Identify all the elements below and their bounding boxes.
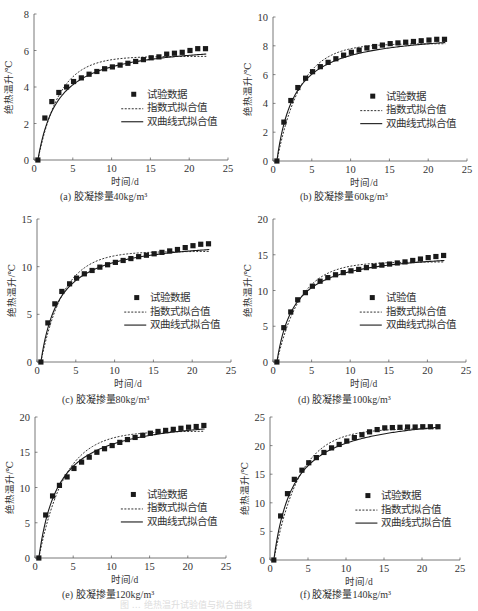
- x-tick-label: 20: [184, 163, 195, 174]
- x-tick-label: 5: [71, 561, 76, 572]
- chart-b: 05101520250246810时间/d绝热温升/℃试验数据指数式拟合值双曲线…: [242, 12, 472, 188]
- y-tick-label: 10: [255, 498, 266, 509]
- legend: 试验数据指数式拟合值双曲线式拟合值: [355, 489, 452, 528]
- y-tick-label: 4: [263, 98, 269, 109]
- y-tick-label: 8: [263, 41, 268, 52]
- legend-label: 双曲线式拟合值: [147, 515, 218, 527]
- x-tick-label: 0: [31, 163, 36, 174]
- legend: 试验数据指数式拟合值双曲线式拟合值: [121, 488, 218, 527]
- data-point-marker: [171, 427, 176, 432]
- data-point-marker: [203, 46, 208, 51]
- y-tick-label: 0: [27, 357, 32, 368]
- chart-d: 051015202505101520时间/d绝热温升/℃试验值指数式拟合值双曲线…: [242, 214, 471, 389]
- y-axis-label: 绝热温升/℃: [242, 264, 253, 318]
- data-point-marker: [441, 253, 446, 258]
- x-tick-label: 15: [144, 561, 155, 572]
- legend-marker-icon: [370, 94, 375, 99]
- x-tick-label: 20: [423, 164, 434, 175]
- x-tick-label: 25: [221, 561, 232, 572]
- x-tick-label: 20: [183, 561, 194, 572]
- subtitle-c: (c) 胶凝掺量80kg/m³: [62, 391, 149, 406]
- legend: 试验数据指数式拟合值双曲线式拟合值: [121, 88, 218, 127]
- x-axis-label: 时间/d: [111, 176, 139, 187]
- x-tick-label: 15: [384, 365, 395, 376]
- legend-label: 双曲线式拟合值: [381, 516, 452, 528]
- y-tick-label: 0: [24, 155, 29, 166]
- legend: 试验数据指数式拟合值双曲线式拟合值: [124, 291, 221, 330]
- x-axis-label: 时间/d: [350, 177, 378, 188]
- x-axis-label: 时间/d: [350, 378, 378, 389]
- legend-marker-icon: [134, 295, 139, 300]
- legend-marker-icon: [370, 295, 375, 300]
- x-tick-label: 0: [270, 164, 275, 175]
- x-tick-label: 5: [309, 365, 314, 376]
- data-point-marker: [372, 264, 377, 269]
- x-tick-label: 25: [455, 563, 466, 574]
- x-tick-label: 20: [187, 365, 198, 376]
- data-point-marker: [194, 424, 199, 429]
- x-tick-label: 25: [461, 365, 472, 376]
- y-tick-label: 0: [25, 553, 30, 564]
- data-point-marker: [178, 426, 183, 431]
- subtitle-f: (f) 胶凝掺量140kg/m³: [300, 586, 391, 601]
- y-tick-label: 4: [24, 82, 30, 93]
- y-tick-label: 0: [260, 555, 265, 566]
- data-point-marker: [419, 38, 424, 43]
- data-point-marker: [164, 52, 169, 57]
- x-tick-label: 10: [341, 563, 352, 574]
- legend-label: 指数式拟合值: [147, 101, 208, 113]
- legend-label: 双曲线式拟合值: [386, 117, 457, 129]
- data-point-marker: [49, 99, 54, 104]
- y-tick-label: 6: [263, 70, 268, 81]
- y-axis-label: 绝热温升/℃: [242, 62, 253, 116]
- data-point-marker: [388, 41, 393, 46]
- data-point-marker: [357, 48, 362, 53]
- x-tick-label: 5: [305, 563, 310, 574]
- legend: 试验数据指数式拟合值双曲线式拟合值: [360, 90, 457, 129]
- y-axis-label: 绝热温升/℃: [239, 462, 250, 516]
- y-axis-label: 绝热温升/℃: [6, 264, 17, 318]
- legend-label: 试验数据: [147, 488, 188, 500]
- y-tick-label: 15: [20, 447, 31, 458]
- legend-label: 双曲线式拟合值: [386, 318, 457, 330]
- legend-label: 试验数据: [381, 489, 422, 501]
- legend-label: 双曲线式拟合值: [147, 115, 218, 127]
- y-tick-label: 10: [22, 262, 33, 273]
- data-point-marker: [387, 261, 392, 266]
- y-tick-label: 0: [263, 156, 268, 167]
- legend-label: 试验值: [386, 291, 417, 303]
- y-tick-label: 5: [25, 518, 30, 529]
- legend-marker-icon: [365, 493, 370, 498]
- data-point-marker: [206, 241, 211, 246]
- x-tick-label: 5: [73, 365, 78, 376]
- legend-label: 试验数据: [150, 291, 191, 303]
- legend-label: 指数式拟合值: [150, 305, 211, 317]
- legend-label: 双曲线式拟合值: [150, 318, 221, 330]
- data-point-marker: [71, 466, 76, 471]
- data-point-marker: [426, 37, 431, 42]
- x-tick-label: 10: [106, 561, 117, 572]
- chart-f: 05101520250510152025时间/d绝热温升/℃试验数据指数式拟合值…: [239, 412, 465, 587]
- data-point-marker: [372, 44, 377, 49]
- legend: 试验值指数式拟合值双曲线式拟合值: [360, 291, 457, 330]
- data-point-marker: [183, 245, 188, 250]
- x-tick-label: 10: [106, 163, 117, 174]
- x-axis-label: 时间/d: [114, 378, 142, 389]
- figure-caption: 图 … 绝热温升试验值与拟合曲线: [120, 598, 252, 611]
- y-tick-label: 6: [24, 46, 29, 57]
- x-tick-label: 15: [379, 563, 390, 574]
- legend-marker-icon: [131, 492, 136, 497]
- y-tick-label: 20: [258, 214, 269, 225]
- x-tick-label: 0: [32, 561, 37, 572]
- y-tick-label: 8: [24, 9, 29, 20]
- y-tick-label: 20: [20, 412, 31, 423]
- y-tick-label: 5: [27, 309, 32, 320]
- chart-c: 0510152025051015时间/d绝热温升/℃试验数据指数式拟合值双曲线式…: [6, 214, 236, 389]
- x-tick-label: 5: [70, 163, 75, 174]
- x-tick-label: 20: [417, 563, 428, 574]
- data-point-marker: [180, 50, 185, 55]
- legend-label: 指数式拟合值: [386, 103, 447, 115]
- y-tick-label: 15: [22, 214, 33, 225]
- x-tick-label: 15: [384, 164, 395, 175]
- y-tick-label: 0: [263, 357, 268, 368]
